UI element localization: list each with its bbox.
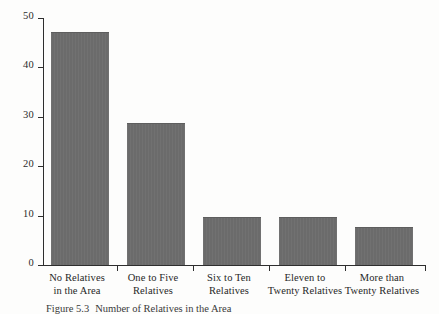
x-label-line-2: Twenty Relatives	[326, 285, 438, 298]
y-tick-50: 50	[38, 18, 43, 19]
x-label-more-than-twenty: More than Twenty Relatives	[326, 272, 438, 297]
y-tick-label-0: 0	[29, 257, 34, 268]
bar-eleven-to-twenty	[279, 217, 337, 265]
y-tick-10: 10	[38, 216, 43, 217]
y-axis-line	[43, 18, 44, 266]
y-tick-label-40: 40	[23, 59, 34, 70]
bar-one-to-five	[127, 123, 185, 265]
y-tick-20: 20	[38, 166, 43, 167]
figure-bar-chart: 0 10 20 30 40 50 No Relatives in th	[0, 0, 439, 314]
y-tick-0: 0	[38, 265, 43, 266]
x-label-line-1: More than	[326, 272, 438, 285]
y-tick-label-50: 50	[23, 10, 34, 21]
y-tick-label-10: 10	[23, 208, 34, 219]
x-tick-1	[117, 266, 118, 271]
bar-more-than-twenty	[355, 227, 413, 265]
figure-caption-text: Number of Relatives in the Area	[95, 303, 231, 314]
bar-six-to-ten	[203, 217, 261, 265]
x-tick-2	[193, 266, 194, 271]
x-tick-4	[345, 266, 346, 271]
bar-no-relatives	[51, 32, 109, 265]
figure-caption-number: Figure 5.3	[46, 303, 89, 314]
x-tick-5	[425, 266, 426, 271]
y-tick-40: 40	[38, 67, 43, 68]
figure-caption: Figure 5.3Number of Relatives in the Are…	[46, 303, 406, 314]
plot-area: 0 10 20 30 40 50	[43, 18, 426, 266]
y-tick-label-30: 30	[23, 109, 34, 120]
x-tick-3	[269, 266, 270, 271]
y-tick-label-20: 20	[23, 158, 34, 169]
x-axis-line	[43, 265, 426, 266]
y-tick-30: 30	[38, 117, 43, 118]
